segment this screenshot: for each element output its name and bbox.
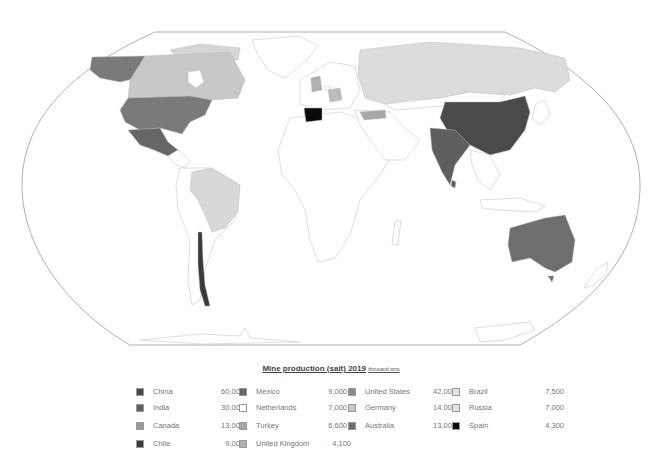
country-spain	[304, 108, 322, 122]
legend-swatch	[348, 404, 356, 412]
legend-label: United Kingdom	[256, 438, 309, 450]
legend-item-germany: Germany 14,000	[348, 402, 458, 414]
legend-item-united-states: United States 42,000	[348, 386, 458, 398]
map-title-unit: thousand tons	[368, 366, 399, 372]
legend-item-united-kingdom: United Kingdom 4,100	[239, 438, 354, 450]
legend-value: 13,000	[410, 420, 456, 432]
legend-label: Spain	[469, 420, 488, 432]
world-map	[0, 0, 662, 360]
legend-swatch	[452, 388, 460, 396]
legend-value: 14,000	[410, 402, 456, 414]
legend-item-mexico: Mexico 9,000	[239, 386, 349, 398]
legend-item-china: China 60,000	[136, 386, 246, 398]
legend-label: Brazil	[469, 386, 488, 398]
legend-value: 42,000	[410, 386, 456, 398]
legend-value: 9,000	[198, 438, 244, 450]
legend-label: Russia	[469, 402, 492, 414]
legend-value: 7,500	[522, 386, 564, 398]
legend-value: 7,000	[301, 402, 347, 414]
country-united-kingdom	[311, 76, 322, 92]
legend-value: 60,000	[198, 386, 244, 398]
legend-item-india: India 30,000	[136, 402, 246, 414]
legend-label: Chile	[153, 438, 170, 450]
legend-swatch	[348, 422, 356, 430]
legend-label: Canada	[153, 420, 179, 432]
legend-label: India	[153, 402, 169, 414]
map-title: Mine production (salt) 2019 thousand ton…	[0, 364, 662, 373]
legend-label: Australia	[365, 420, 394, 432]
legend-label: China	[153, 386, 173, 398]
legend-swatch	[136, 388, 144, 396]
country-netherlands	[325, 86, 330, 90]
legend-item-spain: Spain 4,300	[452, 420, 564, 432]
legend-label: Germany	[365, 402, 396, 414]
legend-swatch	[136, 440, 144, 448]
legend-swatch	[136, 422, 144, 430]
legend-swatch	[452, 404, 460, 412]
country-turkey	[360, 110, 386, 120]
legend-item-netherlands: Netherlands 7,000	[239, 402, 349, 414]
map-title-main: Mine production (salt) 2019	[262, 364, 366, 373]
legend-value: 9,000	[301, 386, 347, 398]
legend-item-brazil: Brazil 7,500	[452, 386, 564, 398]
legend-swatch	[239, 422, 247, 430]
legend-value: 7,000	[522, 402, 564, 414]
legend-value: 30,000	[198, 402, 244, 414]
legend-label: Mexico	[256, 386, 280, 398]
legend-swatch	[239, 388, 247, 396]
legend-swatch	[239, 440, 247, 448]
legend-value: 6,600	[301, 420, 347, 432]
country-canada	[128, 52, 245, 100]
legend-swatch	[239, 404, 247, 412]
legend-swatch	[452, 422, 460, 430]
legend-label: Netherlands	[256, 402, 296, 414]
legend-label: United States	[365, 386, 410, 398]
legend-swatch	[348, 388, 356, 396]
country-germany	[328, 88, 342, 102]
legend-value: 4,300	[522, 420, 564, 432]
legend-value: 13,000	[198, 420, 244, 432]
legend-swatch	[136, 404, 144, 412]
legend-item-australia: Australia 13,000	[348, 420, 458, 432]
legend-value: 4,100	[309, 438, 351, 450]
legend-item-chile: Chile 9,000	[136, 438, 246, 450]
legend-label: Turkey	[256, 420, 279, 432]
legend-item-turkey: Turkey 6,600	[239, 420, 349, 432]
legend-item-russia: Russia 7,000	[452, 402, 564, 414]
legend-item-canada: Canada 13,000	[136, 420, 246, 432]
